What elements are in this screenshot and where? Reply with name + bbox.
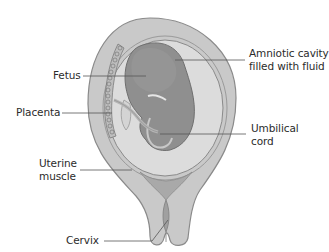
diagram-canvas: Fetus Placenta Amniotic cavity filled wi… xyxy=(0,0,329,252)
label-umbilical-cord: Umbilical cord xyxy=(251,122,299,148)
label-amniotic-cavity: Amniotic cavity filled with fluid xyxy=(249,47,329,73)
label-uterine-muscle: Uterine muscle xyxy=(39,157,77,183)
label-placenta: Placenta xyxy=(16,106,60,119)
label-cervix: Cervix xyxy=(66,234,99,247)
label-fetus: Fetus xyxy=(53,69,81,82)
